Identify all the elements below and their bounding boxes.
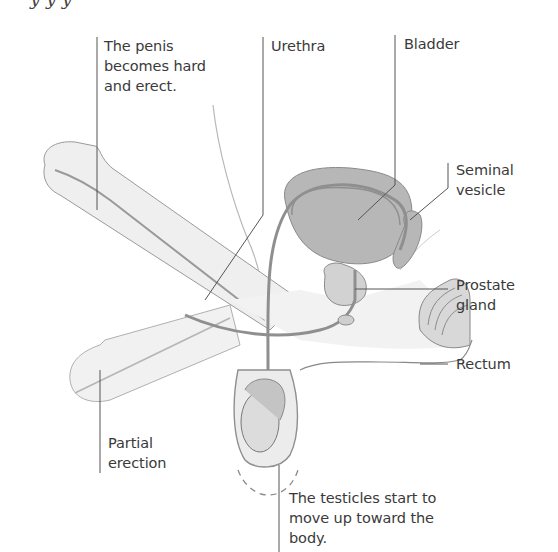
bulbourethral-gland	[338, 315, 354, 325]
scrotum-shape	[234, 370, 297, 467]
label-urethra: Urethra	[271, 36, 325, 56]
label-partial-erection: Partial erection	[108, 433, 166, 473]
prostate-shape	[324, 263, 366, 305]
partial-erection-shape	[70, 305, 240, 402]
label-prostate-gland: Prostate gland	[456, 275, 515, 315]
label-testicles: The testicles start to move up toward th…	[289, 488, 436, 548]
bladder-shape	[284, 167, 411, 263]
label-rectum: Rectum	[456, 354, 511, 374]
label-penis-erect: The penis becomes hard and erect.	[104, 36, 206, 96]
label-bladder: Bladder	[404, 34, 459, 54]
anatomy-diagram: y y y	[0, 0, 558, 552]
label-seminal-vesicle: Seminal vesicle	[456, 160, 514, 200]
